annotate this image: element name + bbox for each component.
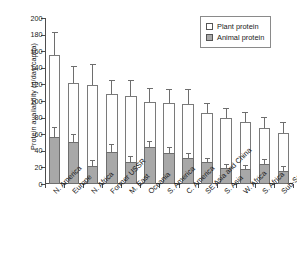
error-bar-cap-total: [71, 66, 77, 67]
error-bar-animal: [92, 161, 93, 166]
error-bar-animal: [149, 142, 150, 147]
error-bar-total: [207, 104, 208, 113]
error-bar-cap-animal: [262, 159, 267, 160]
error-bar-animal: [54, 128, 55, 136]
y-tick-label: 160: [31, 47, 43, 56]
y-tick-label: 20: [35, 163, 43, 172]
legend-label-plant-protein: Plant protein: [217, 22, 259, 31]
y-tick-label: 120: [31, 80, 43, 89]
error-bar-cap-animal: [71, 134, 76, 135]
error-bar-cap-total: [204, 103, 210, 104]
y-tick-label: 180: [31, 30, 43, 39]
error-bar-animal: [283, 167, 284, 170]
error-bar-total: [188, 90, 189, 103]
error-bar-cap-animal: [52, 127, 57, 128]
error-bar-cap-animal: [205, 158, 210, 159]
error-bar-cap-total: [261, 117, 267, 118]
error-bar-cap-animal: [186, 153, 191, 154]
y-axis-line: [45, 18, 46, 184]
error-bar-animal: [207, 159, 208, 162]
y-tick-label: 40: [35, 146, 43, 155]
error-bar-cap-animal: [109, 144, 114, 145]
legend-item-plant-protein: Plant protein: [206, 21, 264, 32]
error-bar-cap-animal: [90, 160, 95, 161]
y-tick-label: 0: [39, 180, 43, 189]
y-tick-label: 100: [31, 97, 43, 106]
error-bar-cap-animal: [147, 141, 152, 142]
y-tick-label: 140: [31, 63, 43, 72]
error-bar-total: [130, 81, 131, 96]
error-bar-cap-total: [52, 32, 58, 33]
error-bar-animal: [245, 166, 246, 169]
y-tick-label: 200: [31, 14, 43, 23]
error-bar-cap-total: [223, 108, 229, 109]
error-bar-total: [264, 118, 265, 127]
error-bar-animal: [188, 154, 189, 158]
error-bar-total: [111, 81, 112, 94]
animal-protein-swatch-icon: [206, 34, 213, 41]
chart-legend: Plant protein Animal protein: [200, 16, 271, 48]
error-bar-total: [54, 33, 55, 55]
error-bar-animal: [130, 157, 131, 162]
error-bar-cap-animal: [167, 147, 172, 148]
x-tick-mark: [45, 184, 46, 188]
error-bar-cap-total: [109, 80, 115, 81]
legend-item-animal-protein: Animal protein: [206, 32, 264, 43]
bar-group: [49, 55, 61, 184]
error-bar-cap-total: [166, 89, 172, 90]
error-bar-cap-animal: [281, 166, 286, 167]
error-bar-cap-total: [128, 80, 134, 81]
error-bar-total: [226, 109, 227, 118]
error-bar-cap-total: [280, 122, 286, 123]
error-bar-cap-total: [90, 64, 96, 65]
bar-segment-animal-protein: [49, 137, 61, 184]
error-bar-animal: [73, 135, 74, 142]
legend-label-animal-protein: Animal protein: [217, 33, 264, 42]
bar-group: [87, 85, 99, 184]
y-tick-label: 80: [35, 113, 43, 122]
protein-availability-chart: Protein availability (g/day/capita) 0204…: [0, 0, 297, 255]
y-tick-label: 60: [35, 130, 43, 139]
error-bar-total: [92, 65, 93, 85]
error-bar-animal: [264, 160, 265, 164]
error-bar-cap-total: [185, 89, 191, 90]
error-bar-cap-total: [147, 88, 153, 89]
error-bar-animal: [169, 148, 170, 153]
error-bar-total: [169, 90, 170, 102]
error-bar-cap-animal: [243, 165, 248, 166]
plant-protein-swatch-icon: [206, 23, 213, 30]
error-bar-total: [283, 123, 284, 132]
error-bar-cap-total: [242, 112, 248, 113]
error-bar-total: [245, 113, 246, 122]
error-bar-total: [149, 89, 150, 102]
error-bar-cap-animal: [128, 156, 133, 157]
error-bar-total: [73, 67, 74, 83]
error-bar-animal: [111, 145, 112, 152]
